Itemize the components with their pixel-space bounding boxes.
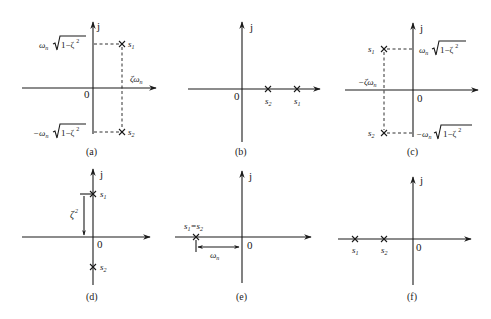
origin-label: 0 [97, 238, 103, 250]
imag-axis-label: j [419, 22, 423, 34]
pole-label-s2: s2 [265, 96, 272, 107]
origin-label: 0 [84, 88, 90, 100]
caption-e: (e) [236, 291, 247, 303]
label-real-part: ζωn [130, 74, 142, 85]
svg-text:1−ζ2: 1−ζ2 [440, 43, 458, 55]
pole-plots-figure: j 0 s1 s2 ωn 1−ζ2 −ωn 1−ζ2 ζωn (a) j [0, 0, 491, 319]
pole-label-s2: s2 [381, 245, 388, 256]
pole-label-s1: s1 [352, 245, 359, 256]
imag-axis-label: j [249, 21, 253, 33]
label-damped-frequency-negative: −ωn 1−ζ2 [416, 125, 472, 140]
label-natural-frequency: ωn [210, 250, 219, 261]
pole-s2-cross-icon [119, 129, 125, 135]
origin-label: 0 [416, 241, 422, 253]
svg-text:−ωn: −ωn [33, 128, 48, 139]
svg-text:1−ζ2: 1−ζ2 [443, 127, 461, 139]
pole-label-s2: s2 [100, 262, 107, 273]
caption-d: (d) [86, 291, 98, 303]
label-real-part: −ζωn [358, 77, 377, 88]
label-damped-frequency-positive: ωn 1−ζ2 [419, 41, 466, 56]
imag-axis-label: j [419, 174, 423, 186]
svg-text:−ωn: −ωn [416, 129, 431, 140]
imag-axis-label: j [99, 168, 103, 180]
imag-axis-label: j [96, 20, 100, 32]
pole-label-s1: s1 [128, 39, 135, 50]
svg-text:1−ζ2: 1−ζ2 [61, 126, 79, 138]
pole-s1-cross-icon [381, 46, 387, 52]
caption-b: (b) [235, 146, 247, 158]
pole-label-s2: s2 [368, 128, 375, 139]
svg-text:ωn: ωn [419, 45, 428, 56]
panel-d: j 0 ζ2 s1 s2 (d) [22, 168, 150, 303]
pole-label-s1: s1 [294, 96, 301, 107]
label-zeta-squared: ζ2 [70, 208, 78, 221]
origin-label: 0 [247, 239, 253, 251]
panel-e: j 0 s1=s2 ωn (e) [175, 170, 311, 303]
svg-text:ωn: ωn [39, 40, 48, 51]
imag-axis-label: j [248, 170, 252, 182]
origin-label: 0 [417, 92, 423, 104]
pole-label-s1: s1 [100, 189, 107, 200]
label-damped-frequency-negative: −ωn 1−ζ2 [33, 124, 86, 139]
pole-s1-cross-icon [119, 41, 125, 47]
pole-label-double: s1=s2 [184, 221, 203, 232]
svg-text:1−ζ2: 1−ζ2 [61, 38, 79, 50]
panel-f: j 0 s1 s2 (f) [338, 174, 471, 303]
pole-s2-cross-icon [381, 130, 387, 136]
panel-a: j 0 s1 s2 ωn 1−ζ2 −ωn 1−ζ2 ζωn (a) [22, 20, 156, 158]
caption-f: (f) [407, 291, 417, 303]
caption-a: (a) [86, 146, 97, 158]
panel-c: j 0 s1 s2 ωn 1−ζ2 −ωn 1−ζ2 −ζωn (c) [345, 22, 478, 158]
label-damped-frequency-positive: ωn 1−ζ2 [39, 36, 86, 51]
pole-label-s2: s2 [128, 127, 135, 138]
caption-c: (c) [407, 146, 418, 158]
panel-b: j 0 s2 s1 (b) [188, 21, 320, 158]
pole-label-s1: s1 [368, 44, 375, 55]
origin-label: 0 [234, 90, 240, 102]
